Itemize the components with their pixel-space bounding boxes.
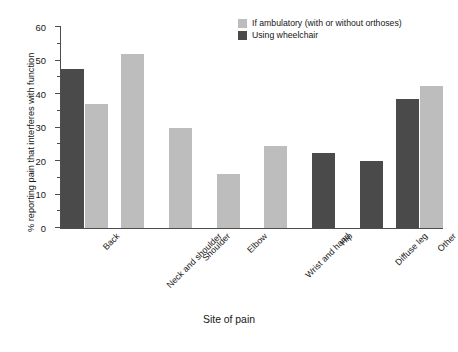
x-axis-tick-label: Elbow bbox=[245, 231, 269, 255]
bar-group bbox=[157, 27, 205, 228]
x-axis-tick-label: Other bbox=[436, 231, 458, 254]
bar bbox=[85, 104, 108, 228]
plot-area: 0102030405060 bbox=[61, 27, 443, 228]
x-axis-tick-label: Diffuse leg bbox=[394, 231, 430, 267]
x-axis-tick-label: Back bbox=[101, 231, 122, 252]
y-axis-title: % reporting pain that interferes with fu… bbox=[13, 18, 29, 232]
bar-group bbox=[109, 27, 157, 228]
bar bbox=[61, 69, 84, 228]
bar bbox=[312, 153, 335, 228]
y-axis-tick-label: 10 bbox=[36, 189, 46, 200]
bar-group bbox=[204, 27, 252, 228]
y-axis-tick-label: 60 bbox=[36, 21, 46, 32]
bar bbox=[217, 174, 240, 228]
y-axis-tick-label: 40 bbox=[36, 88, 46, 99]
x-axis-title: Site of pain bbox=[0, 314, 458, 325]
bar bbox=[396, 99, 419, 228]
y-axis-tick-label: 20 bbox=[36, 155, 46, 166]
y-axis-tick-label: 30 bbox=[36, 122, 46, 133]
bar-group bbox=[395, 27, 443, 228]
bar bbox=[121, 54, 144, 228]
y-axis-tick-label: 0 bbox=[41, 222, 46, 233]
bar-group bbox=[348, 27, 396, 228]
bar-group bbox=[61, 27, 109, 228]
bar bbox=[360, 161, 383, 228]
bar bbox=[264, 146, 287, 228]
x-axis-tick-labels: BackNeck and shoulderShoulderElbowWrist … bbox=[61, 231, 443, 303]
bar bbox=[169, 128, 192, 229]
bar bbox=[420, 86, 443, 228]
bar-group bbox=[300, 27, 348, 228]
bar-group bbox=[252, 27, 300, 228]
x-axis-tick-label: Neck and shoulder bbox=[164, 231, 223, 290]
x-axis-line bbox=[60, 228, 443, 229]
y-axis-tick-label: 50 bbox=[36, 55, 46, 66]
y-axis-title-text: % reporting pain that interferes with fu… bbox=[26, 18, 36, 232]
bar-chart-figure: If ambulatory (with or without orthoses)… bbox=[0, 0, 458, 352]
